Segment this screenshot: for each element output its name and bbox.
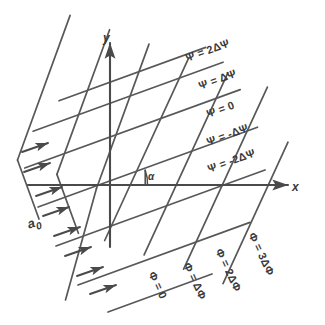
equipotential-line [57,174,79,233]
flow-net-figure: x y α a0 Ψ = 2ΔΨ Ψ = ΔΨ Ψ = 0 Ψ = -ΔΨ Ψ … [0,0,325,325]
y-axis-label: y [103,31,110,45]
flow-net-canvas [0,0,325,325]
x-axis-label: x [292,180,299,194]
streamline [25,90,241,168]
freestream-arrow [77,267,103,276]
streamline [59,47,206,100]
freestream-arrow [22,143,48,152]
streamline [56,170,265,246]
freestream-arrow [54,227,80,236]
freestream-arrow [43,207,69,216]
freestream-arrow [36,187,62,196]
equipotential-line [96,44,149,189]
streamline [33,62,223,131]
freestream-arrow [90,285,116,294]
equipotential-line [18,15,71,160]
angle-alpha-label: α [148,171,154,182]
